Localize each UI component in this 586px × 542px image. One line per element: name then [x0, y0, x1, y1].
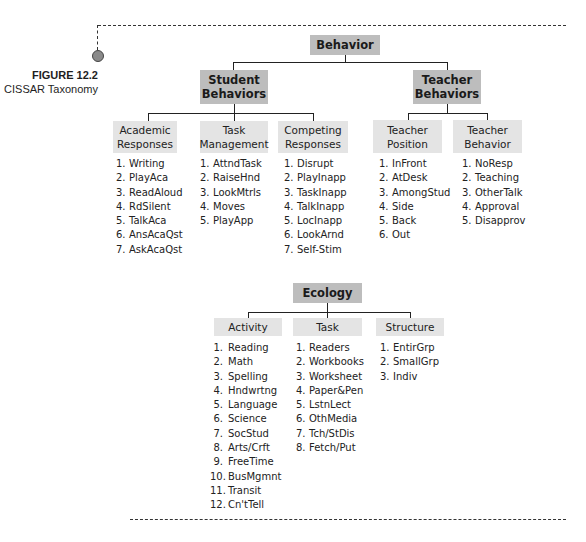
item-label: Indiv: [393, 371, 417, 382]
item-number: 6.: [296, 412, 304, 426]
list-item: 10.BusMgmnt: [210, 470, 281, 484]
item-label: LookMtrls: [213, 187, 261, 198]
item-number: 3.: [284, 186, 292, 200]
group-label: Task: [316, 320, 339, 334]
list-item: 2.PlayAca: [116, 171, 183, 185]
item-label: SocStud: [228, 428, 269, 439]
item-number: 6.: [379, 228, 387, 242]
teacher-behaviors-line1: Teacher: [422, 73, 472, 87]
item-number: 10.: [210, 470, 223, 484]
list-item: 6.AnsAcaQst: [116, 228, 183, 242]
connector: [408, 113, 488, 114]
list-item: 5.Language: [210, 398, 281, 412]
academic-responses-list: 1.Writing2.PlayAca3.ReadAloud4.RdSilent5…: [116, 157, 183, 257]
item-label: Fetch/Put: [309, 442, 356, 453]
item-label: Back: [392, 215, 416, 226]
top-dashed-rule: [98, 25, 566, 26]
structure-list: 1.EntirGrp2.SmallGrp3.Indiv: [380, 341, 439, 384]
list-item: 3.ReadAloud: [116, 186, 183, 200]
list-item: 2.Teaching: [462, 171, 525, 185]
connector: [345, 55, 346, 62]
list-item: 8.Arts/Crft: [210, 441, 281, 455]
item-label: Language: [228, 399, 277, 410]
list-item: 6.Out: [379, 228, 450, 242]
list-item: 1.NoResp: [462, 157, 525, 171]
item-label: Readers: [309, 342, 350, 353]
student-behaviors-node: Student Behaviors: [200, 70, 268, 104]
item-label: BusMgmnt: [228, 471, 281, 482]
item-number: 2.: [116, 171, 124, 185]
group-label-line2: Responses: [117, 137, 173, 151]
connector: [313, 113, 314, 121]
item-label: Worksheet: [309, 371, 362, 382]
item-label: Out: [392, 229, 410, 240]
item-label: LookArnd: [297, 229, 344, 240]
list-item: 4.RdSilent: [116, 200, 183, 214]
list-item: 4.Moves: [200, 200, 262, 214]
ecology-root-node: Ecology: [293, 283, 362, 303]
item-number: 5.: [296, 398, 304, 412]
item-label: PlayInapp: [297, 172, 346, 183]
item-number: 3.: [200, 186, 208, 200]
teacher-behavior-node: Teacher Behavior: [453, 120, 522, 153]
item-label: Hndwrtng: [228, 385, 277, 396]
item-label: Science: [228, 413, 267, 424]
item-label: Reading: [228, 342, 269, 353]
item-label: LocInapp: [297, 215, 342, 226]
item-number: 7.: [210, 427, 223, 441]
connector: [447, 62, 448, 70]
item-label: Teaching: [475, 172, 519, 183]
connector: [233, 62, 448, 63]
item-label: AttndTask: [213, 158, 262, 169]
list-item: 4.Side: [379, 200, 450, 214]
list-item: 5.LstnLect: [296, 398, 364, 412]
list-item: 7.Self-Stim: [284, 243, 347, 257]
ecology-task-node: Task: [293, 318, 362, 336]
item-number: 2.: [200, 171, 208, 185]
item-label: Transit: [228, 485, 261, 496]
group-label-line2: Responses: [285, 137, 341, 151]
connector: [148, 113, 313, 114]
item-label: Approval: [475, 201, 519, 212]
list-item: 3.OtherTalk: [462, 186, 525, 200]
item-label: AtDesk: [392, 172, 427, 183]
item-label: Spelling: [228, 371, 268, 382]
item-number: 3.: [380, 370, 388, 384]
student-behaviors-line2: Behaviors: [202, 87, 266, 101]
item-number: 3.: [462, 186, 470, 200]
teacher-behaviors-node: Teacher Behaviors: [413, 70, 481, 104]
item-label: AnsAcaQst: [129, 229, 183, 240]
item-number: 3.: [296, 370, 304, 384]
list-item: 7.AskAcaQst: [116, 243, 183, 257]
list-item: 4.Approval: [462, 200, 525, 214]
item-label: Arts/Crft: [228, 442, 270, 453]
list-item: 3.Indiv: [380, 370, 439, 384]
group-label: Structure: [386, 320, 435, 334]
group-label-line1: Teacher: [467, 123, 508, 137]
list-item: 1.Reading: [210, 341, 281, 355]
teacher-behavior-list: 1.NoResp2.Teaching3.OtherTalk4.Approval5…: [462, 157, 525, 228]
group-label-line1: Teacher: [387, 123, 428, 137]
group-label-line2: Management: [199, 137, 268, 151]
list-item: 3.AmongStud: [379, 186, 450, 200]
item-number: 1.: [380, 341, 388, 355]
list-item: 1.EntirGrp: [380, 341, 439, 355]
item-number: 8.: [296, 441, 304, 455]
list-item: 1.AttndTask: [200, 157, 262, 171]
list-item: 3.Worksheet: [296, 370, 364, 384]
group-label-line1: Competing: [284, 123, 341, 137]
structure-node: Structure: [376, 318, 444, 336]
connector: [234, 104, 235, 113]
item-number: 3.: [210, 370, 223, 384]
item-number: 5.: [462, 214, 470, 228]
group-label-line1: Task: [223, 123, 246, 137]
item-label: RaiseHnd: [213, 172, 260, 183]
group-label-line2: Behavior: [464, 137, 511, 151]
connector: [148, 113, 149, 121]
item-label: TalkAca: [129, 215, 166, 226]
item-number: 2.: [210, 355, 223, 369]
ecology-root-label: Ecology: [302, 286, 352, 300]
item-number: 2.: [462, 171, 470, 185]
list-item: 1.InFront: [379, 157, 450, 171]
list-item: 7.Tch/StDis: [296, 427, 364, 441]
